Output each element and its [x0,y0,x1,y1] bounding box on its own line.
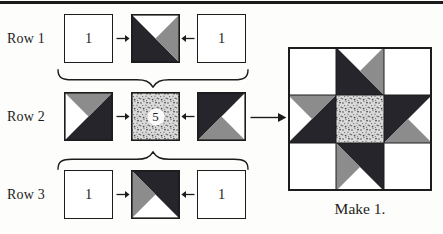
brace-row2-to-row3 [57,151,249,170]
arrow-right-icon [116,111,130,122]
row-1-label: Row 1 [7,14,61,63]
row-2-right-qst-unit [197,92,246,141]
assembled-block [288,47,432,191]
fabric-number: 1 [85,186,92,203]
arrow-left-icon [181,189,195,200]
fabric-number: 5 [147,108,164,125]
fabric-number: 1 [218,30,225,47]
row-2-left-qst-unit [64,92,113,141]
quilt-assembly-diagram: Row 1 1 1 Row 2 5 [0,0,443,234]
brace-row1-to-row2 [57,69,249,88]
arrow-left-icon [181,111,195,122]
arrow-right-icon [116,33,130,44]
row-3-right-square: 1 [197,170,246,219]
row-1-right-square: 1 [197,14,246,63]
row-1-qst-unit [131,14,180,63]
make-caption: Make 1. [288,200,432,218]
row-1-left-square: 1 [64,14,113,63]
assemble-arrow-icon [250,111,287,124]
row-2-label: Row 2 [7,92,61,141]
row-3-qst-unit [131,170,180,219]
arrow-left-icon [181,33,195,44]
fabric-number: 1 [85,30,92,47]
top-rule [0,1,443,4]
fabric-number: 1 [218,186,225,203]
row-3-label: Row 3 [7,170,61,219]
row-3-left-square: 1 [64,170,113,219]
row-2-center-square: 5 [131,92,180,141]
arrow-right-icon [116,189,130,200]
